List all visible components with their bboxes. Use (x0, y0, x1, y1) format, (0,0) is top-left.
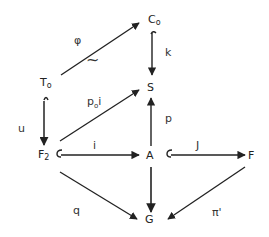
node-F-base: F (248, 149, 254, 162)
diagram-arrows (0, 0, 269, 237)
label-i: i (93, 140, 96, 151)
label-p0i-i: i (98, 95, 101, 108)
node-G: G (145, 214, 154, 225)
node-T0-base: T (40, 76, 47, 89)
label-p0i: poi (87, 96, 101, 110)
node-A-base: A (146, 149, 154, 162)
node-F2: F2 (38, 149, 49, 162)
node-A: A (146, 150, 154, 161)
arrow-q (60, 172, 137, 219)
arrow-u (44, 98, 48, 146)
label-p0i-p: p (87, 95, 94, 108)
node-S-base: S (147, 81, 154, 94)
label-p: p (165, 113, 172, 124)
label-u: u (18, 123, 25, 134)
arrow-J (167, 150, 245, 157)
node-T0-sub: o (47, 81, 52, 90)
label-k: k (165, 47, 171, 58)
node-G-base: G (145, 213, 154, 226)
node-S: S (147, 82, 154, 93)
node-T0: To (40, 77, 52, 90)
node-C0-base: C (148, 13, 156, 26)
node-F: F (248, 150, 254, 161)
node-C0: Co (148, 14, 161, 27)
label-q: q (73, 205, 80, 216)
arrow-i (57, 150, 139, 157)
label-pi-prime: π' (212, 207, 222, 218)
node-C0-sub: o (156, 18, 161, 27)
label-tilde: ~ (86, 52, 99, 68)
label-J: J (196, 140, 199, 151)
arrow-pi-prime (168, 167, 245, 219)
node-F2-sub: 2 (44, 153, 49, 162)
arrow-phi (61, 23, 139, 75)
arrow-k (151, 32, 156, 75)
label-phi: φ (74, 35, 81, 46)
